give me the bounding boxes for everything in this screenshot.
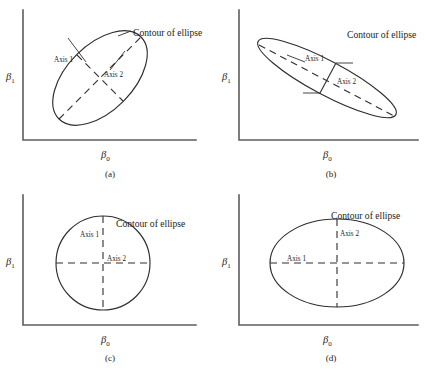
panel-c-caption: (c) xyxy=(105,353,115,363)
panel-c-axis-2-label: Axis 2 xyxy=(107,255,126,263)
panel-b-y-axis-label: β1 xyxy=(221,71,231,85)
panel-b-caption: (b) xyxy=(326,169,337,179)
panel-b: Axis 1 Axis 2 Contour of ellipse β1 β0 (… xyxy=(213,0,426,184)
panel-b-axis-1-label: Axis 1 xyxy=(305,55,324,63)
panel-a-x-axis-label: β0 xyxy=(100,149,110,163)
panel-c-contour-label: Contour of ellipse xyxy=(116,218,185,229)
panel-a-axis-2-label: Axis 2 xyxy=(104,71,123,79)
panel-c: Axis 1 Axis 2 Contour of ellipse β1 β0 (… xyxy=(0,185,213,369)
panel-d-axis-1-label: Axis 1 xyxy=(287,255,306,263)
panel-d-axis-2-label: Axis 2 xyxy=(340,230,359,238)
panel-b-axis-2-line xyxy=(320,63,336,93)
panel-b-x-axis-label: β0 xyxy=(322,149,332,163)
figure-root: Axis 1 Axis 2 Contour of ellipse β1 β0 (… xyxy=(0,0,427,369)
panel-b-contour-label: Contour of ellipse xyxy=(347,29,416,40)
panel-d-contour-label: Contour of ellipse xyxy=(331,210,400,221)
panel-b-axis-1-leader xyxy=(287,55,305,62)
panel-a: Axis 1 Axis 2 Contour of ellipse β1 β0 (… xyxy=(0,0,213,184)
panel-b-axis-2-label: Axis 2 xyxy=(337,78,356,86)
panel-a-axis-1-label: Axis 1 xyxy=(54,56,73,64)
panel-d-caption: (d) xyxy=(326,353,337,363)
panel-a-contour-leader xyxy=(118,31,131,36)
panel-a-axis-1-line xyxy=(59,37,141,119)
panel-b-axis-1-line xyxy=(259,45,396,117)
panel-a-contour-label: Contour of ellipse xyxy=(133,27,202,38)
panel-c-x-axis-label: β0 xyxy=(100,334,110,348)
panel-a-axis-2-leader xyxy=(110,51,125,70)
panel-d-y-axis-label: β1 xyxy=(221,256,231,270)
panel-a-y-axis-label: β1 xyxy=(5,71,15,85)
panel-b-ellipse-contour xyxy=(250,26,404,129)
panel-d: Axis 1 Axis 2 Contour of ellipse β1 β0 (… xyxy=(213,185,426,369)
panel-a-caption: (a) xyxy=(105,169,115,179)
panel-c-y-axis-label: β1 xyxy=(5,256,15,270)
panel-c-axis-1-label: Axis 1 xyxy=(80,231,99,239)
panel-d-x-axis-label: β0 xyxy=(322,334,332,348)
